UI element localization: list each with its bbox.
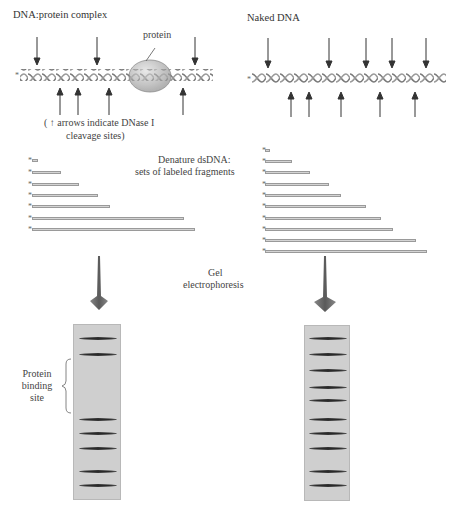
gel-band [79, 447, 117, 450]
gel-band [309, 447, 347, 450]
binding-site-label-line-1: Protein [16, 368, 58, 380]
protein-ellipse [129, 48, 171, 92]
fragment [32, 194, 98, 197]
gel-band [309, 369, 347, 372]
fragment [265, 160, 292, 163]
fragment [32, 228, 195, 231]
left-dna-helix: * [15, 69, 213, 81]
binding-site-label: Protein binding site [16, 368, 58, 404]
fragment [32, 205, 110, 208]
protein-label: protein [143, 29, 171, 41]
gel-band [309, 484, 347, 487]
right-dna-helix: * [247, 73, 446, 85]
fragment [265, 239, 416, 242]
gel-band [309, 386, 347, 389]
gel-band [309, 353, 347, 356]
denature-label-line-2: sets of labeled fragments [135, 166, 235, 178]
fragment [265, 171, 310, 174]
gel-band [309, 470, 347, 473]
left-down-arrows [34, 37, 198, 65]
gel-label-line-1: Gel [208, 267, 222, 279]
gel-band [79, 337, 117, 340]
fragment [32, 159, 38, 162]
right-electrophoresis-arrow [314, 256, 336, 312]
fragment [265, 228, 393, 231]
fragment [265, 183, 329, 186]
legend-line-1: ( ↑ arrows indicate DNase I [44, 117, 154, 129]
svg-text:*: * [15, 71, 19, 80]
gel-band [309, 432, 347, 435]
fragment [265, 205, 366, 208]
fragment [265, 217, 381, 220]
gel-band [309, 337, 347, 340]
left-electrophoresis-arrow [90, 256, 108, 310]
fragment [265, 250, 427, 253]
fragment [265, 194, 341, 197]
left-up-arrows [57, 88, 186, 115]
gel-band [79, 484, 117, 487]
denature-label-line-1: Denature dsDNA: [158, 154, 230, 166]
diagram-canvas: * * [0, 0, 449, 508]
binding-site-label-line-2: binding [16, 380, 58, 392]
legend-line-2: cleavage sites) [66, 130, 125, 142]
svg-text:*: * [247, 75, 251, 84]
gel-band [79, 418, 117, 421]
fragment [265, 149, 270, 152]
gel-band [309, 418, 347, 421]
gel-band [79, 432, 117, 435]
left-gel-lane [73, 324, 121, 500]
gel-band [79, 470, 117, 473]
binding-site-label-line-3: site [16, 392, 58, 404]
right-down-arrows [265, 38, 429, 68]
gel-band [79, 353, 117, 356]
binding-site-brace [62, 359, 71, 413]
fragment [32, 171, 61, 174]
gel-band [309, 399, 347, 402]
right-up-arrows [288, 92, 418, 117]
fragment [32, 217, 184, 220]
gel-label-line-2: electrophoresis [183, 279, 244, 291]
right-gel-lane [304, 325, 350, 501]
fragment [32, 183, 79, 186]
